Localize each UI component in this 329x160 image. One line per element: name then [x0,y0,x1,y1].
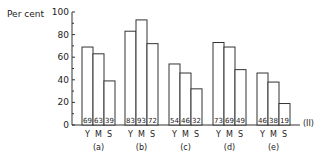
bar [136,20,147,125]
figure-annotation: (II) [303,119,314,128]
bar-value-label: 46 [181,117,190,125]
bar-value-label: 83 [126,117,135,125]
bar-category-label: Y [215,130,221,139]
bar-category-label: S [282,130,287,139]
bar-value-label: 19 [280,117,289,125]
bar-value-label: 46 [258,117,267,125]
bar-category-label: M [138,130,145,139]
bar-value-label: 39 [105,117,114,125]
bar [82,47,93,125]
bar-category-label: Y [171,130,177,139]
bar [125,31,136,125]
bar-category-label: Y [259,130,265,139]
bar [213,43,224,125]
bar-category-label: M [182,130,189,139]
bar-category-label: S [238,130,243,139]
bar-value-label: 72 [148,117,157,125]
bar-value-label: 93 [137,117,146,125]
bar [93,54,104,125]
bar-category-label: S [194,130,199,139]
bar-value-label: 73 [214,117,223,125]
y-tick-label: 100 [52,7,69,17]
bar-value-label: 32 [192,117,201,125]
bar-category-label: Y [127,130,133,139]
bar [224,47,235,125]
bar-category-label: M [270,130,277,139]
bar [169,64,180,125]
group-label: (e) [268,143,279,152]
bar-value-label: 54 [170,117,179,125]
bar-value-label: 63 [94,117,103,125]
y-tick-label: 40 [58,75,70,85]
bar-chart: 020406080100Per cent69Y63M39S(a)83Y93M72… [0,0,329,160]
group-label: (c) [180,143,191,152]
bar [147,44,158,125]
group-label: (a) [93,143,104,152]
bar-value-label: 69 [225,117,234,125]
bar-value-label: 49 [236,117,245,125]
y-tick-label: 0 [63,120,69,130]
bar-category-label: M [226,130,233,139]
bar-category-label: S [150,130,155,139]
bar-value-label: 38 [269,117,278,125]
y-tick-label: 20 [58,97,70,107]
bar-category-label: S [107,130,112,139]
bar-value-label: 69 [83,117,92,125]
group-label: (b) [136,143,147,152]
y-axis-label: Per cent [7,9,44,19]
bar-category-label: Y [84,130,90,139]
group-label: (d) [224,143,235,152]
bar-category-label: M [95,130,102,139]
y-tick-label: 60 [58,52,70,62]
y-tick-label: 80 [58,30,70,40]
